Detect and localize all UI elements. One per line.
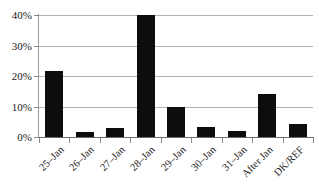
x-label-text: 27–Jan <box>98 144 127 173</box>
x-tick-mark-8 <box>283 138 284 143</box>
x-tick-mark-1 <box>69 138 70 143</box>
x-tick-mark-7 <box>252 138 253 143</box>
bar-slot-0 <box>39 15 69 137</box>
y-tick-label-30: 30% <box>12 41 32 52</box>
y-tick-label-0: 0% <box>17 132 32 143</box>
bar-30-jan <box>197 127 215 137</box>
x-label-text: 30–Jan <box>189 144 218 173</box>
bar-slot-4 <box>161 15 191 137</box>
x-tick-mark-6 <box>222 138 223 143</box>
x-label-text: 29–Jan <box>159 144 188 173</box>
bar-slot-5 <box>191 15 221 137</box>
bar-31-jan <box>228 131 246 137</box>
bar-dk-ref <box>289 124 307 137</box>
bar-chart: 40% 30% 20% 10% 0% <box>0 0 319 193</box>
bar-25-jan <box>45 71 63 137</box>
bar-slot-7 <box>252 15 282 137</box>
x-tick-mark-2 <box>100 138 101 143</box>
bar-after-jan <box>258 94 276 137</box>
x-tick-mark-3 <box>130 138 131 143</box>
bar-26-jan <box>76 132 94 137</box>
bar-slot-6 <box>222 15 252 137</box>
x-label-text: 25–Jan <box>37 144 66 173</box>
y-tick-label-10: 10% <box>12 102 32 113</box>
bar-slot-1 <box>69 15 99 137</box>
y-tick-label-40: 40% <box>12 10 32 21</box>
x-tick-mark-0 <box>39 138 40 143</box>
x-tick-mark-5 <box>191 138 192 143</box>
x-label-text: 26–Jan <box>67 144 96 173</box>
x-label-text: 28–Jan <box>128 144 157 173</box>
bar-29-jan <box>167 107 185 138</box>
bar-slot-8 <box>283 15 313 137</box>
y-tick-label-20: 20% <box>12 71 32 82</box>
bar-slot-2 <box>100 15 130 137</box>
bar-27-jan <box>106 128 124 137</box>
x-label-text: DK/REF <box>272 144 306 178</box>
x-axis-line <box>38 137 314 138</box>
bar-slot-3 <box>130 15 160 137</box>
x-tick-mark-4 <box>161 138 162 143</box>
x-tick-mark-9 <box>313 138 314 143</box>
bars-layer <box>39 15 313 137</box>
bar-28-jan <box>137 15 155 137</box>
